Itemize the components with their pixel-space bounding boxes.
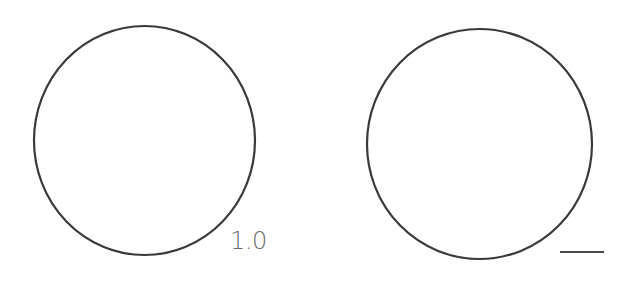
left-circle bbox=[34, 26, 255, 255]
figure: 1.0 bbox=[0, 0, 629, 289]
right-circle bbox=[367, 29, 592, 259]
circles-canvas bbox=[0, 0, 629, 289]
left-circle-value-label: 1.0 bbox=[230, 229, 267, 253]
scale-bar bbox=[560, 251, 604, 253]
